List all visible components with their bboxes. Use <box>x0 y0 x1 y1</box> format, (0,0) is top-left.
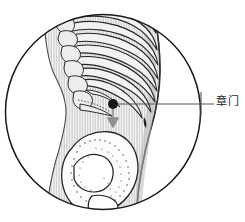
acupoint-label: 章门 <box>216 95 239 108</box>
acupoint-dot[interactable] <box>108 99 118 109</box>
acupoint-figure: 章门 <box>0 0 245 222</box>
vertebra-1 <box>54 0 73 17</box>
anatomy-illustration-svg <box>0 0 245 222</box>
acetabular-fossa <box>74 154 113 192</box>
lens-contents <box>0 0 245 222</box>
